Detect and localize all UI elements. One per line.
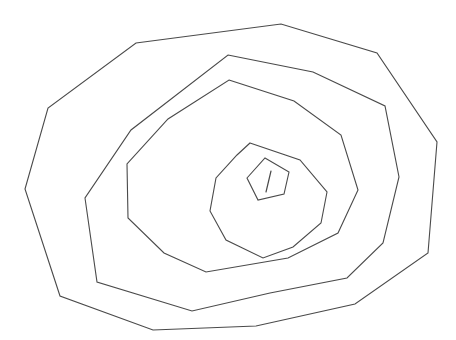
- drawing-canvas: [0, 0, 456, 340]
- canvas-background: [0, 0, 456, 340]
- line-drawing: [0, 0, 456, 340]
